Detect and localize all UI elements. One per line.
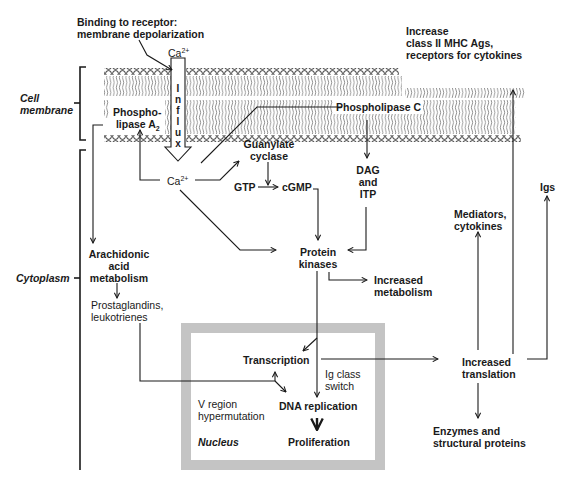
cell-membrane-label: Cell membrane [20, 92, 72, 116]
protein-kinases-label: Protein kinases [296, 246, 340, 270]
guanylate-cyclase-label: Guanylate cyclase [240, 138, 298, 162]
lymphocyte-activation-diagram: Cell membrane Cytoplasm Nucleus Binding … [0, 0, 566, 487]
prostaglandins-label: Prostaglandins, leukotrienes [91, 299, 163, 323]
enzymes-structural-proteins-label: Enzymes and structural proteins [433, 425, 526, 449]
v-region-hypermutation-label: V region hypermutation [198, 398, 265, 422]
region-brackets [74, 67, 86, 470]
lipid-bilayer [104, 68, 525, 142]
mediators-cytokines-label: Mediators, cytokines [454, 208, 507, 232]
increased-translation-label: Increased translation [462, 356, 516, 380]
influx-label: I n f l u x [174, 83, 182, 149]
phospholipase-c-label: Phospholipase C [336, 101, 421, 113]
increased-metabolism-label: Increased metabolism [374, 274, 432, 298]
gtp-label: GTP [234, 181, 256, 193]
ca-ion-cytoplasm-label: Ca2+ [167, 175, 188, 187]
cgmp-label: cGMP [282, 181, 312, 193]
cytoplasm-label: Cytoplasm [16, 272, 70, 284]
ig-class-switch-label: Ig class switch [325, 368, 361, 392]
increase-mhc-label: Increase class II MHC Ags, receptors for… [406, 25, 522, 61]
dna-replication-label: DNA replication [279, 400, 357, 412]
dag-itp-label: DAG and ITP [354, 164, 382, 200]
transcription-label: Transcription [243, 354, 310, 366]
nucleus-label: Nucleus [198, 436, 239, 448]
ca-ion-top-label: Ca2+ [168, 47, 189, 59]
phospholipase-a2-label: Phospho- lipase A2 [113, 106, 161, 130]
igs-label: Igs [540, 181, 555, 193]
diagram-graphics [0, 0, 566, 487]
binding-to-receptor-label: Binding to receptor: membrane depolariza… [77, 16, 204, 40]
proliferation-label: Proliferation [288, 436, 350, 448]
arachidonic-acid-label: Arachidonic acid metabolism [88, 248, 150, 284]
